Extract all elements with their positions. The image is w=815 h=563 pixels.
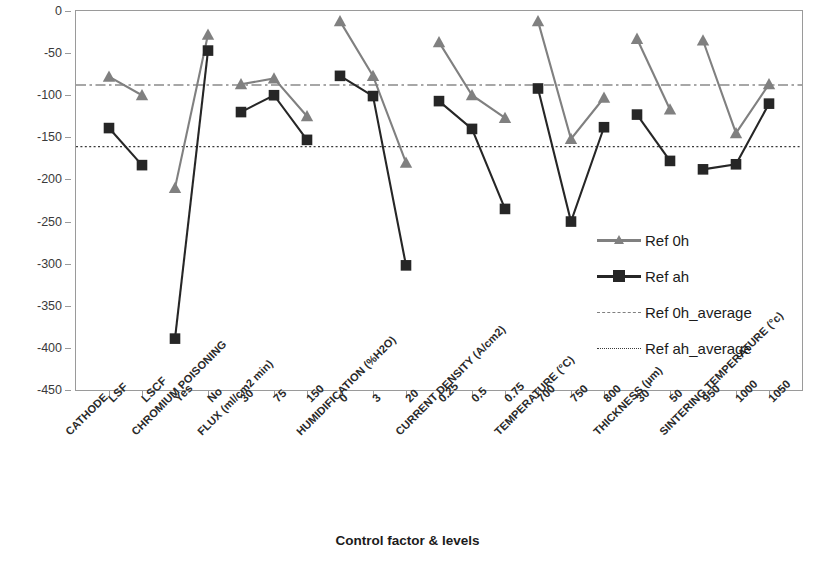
legend-item[interactable]: Ref 0h_average (597, 294, 797, 330)
y-tick-mark (65, 390, 71, 391)
series-segment (175, 51, 208, 339)
y-tick-label: -400 (37, 341, 62, 355)
triangle-marker-icon (614, 235, 624, 244)
triangle-marker (202, 28, 214, 39)
square-marker (302, 135, 313, 146)
series-segment (340, 76, 406, 266)
triangle-marker (697, 34, 709, 45)
square-marker (665, 156, 676, 167)
y-tick-label: -200 (37, 172, 62, 186)
legend-label: Ref ah_average (645, 340, 752, 357)
y-tick-label: 0 (55, 4, 62, 18)
x-factor-label: CATHODE (63, 391, 110, 438)
legend-label: Ref ah (645, 268, 689, 285)
y-tick-mark (65, 306, 71, 307)
square-marker-icon (613, 270, 625, 282)
square-marker (401, 260, 412, 271)
y-tick-mark (65, 264, 71, 265)
triangle-marker (730, 127, 742, 138)
triangle-marker (631, 33, 643, 44)
average-effect-line-chart: Average effect for ΔV/500h (mV/500h) 0-5… (0, 0, 815, 563)
triangle-marker (433, 36, 445, 47)
legend-item[interactable]: Ref ah (597, 258, 797, 294)
series-segment (439, 101, 505, 209)
square-marker (104, 123, 115, 134)
x-axis-title: Control factor & levels (0, 533, 815, 548)
triangle-marker (367, 70, 379, 81)
square-marker (500, 204, 511, 215)
triangle-marker (598, 92, 610, 103)
square-marker (236, 107, 247, 118)
series-segment (637, 39, 670, 110)
triangle-marker (532, 15, 544, 26)
square-marker (731, 159, 742, 170)
y-tick-mark (65, 348, 71, 349)
legend-key (597, 233, 641, 247)
y-tick-label: -450 (37, 383, 62, 397)
triangle-marker (334, 15, 346, 26)
square-marker (764, 98, 775, 109)
series-segment (637, 115, 670, 161)
square-marker (533, 83, 544, 94)
square-marker (566, 216, 577, 227)
series-segment (439, 42, 505, 118)
square-marker (335, 71, 346, 82)
series-segment (175, 35, 208, 188)
legend-item[interactable]: Ref 0h (597, 222, 797, 258)
triangle-marker (499, 112, 511, 123)
y-tick-mark (65, 179, 71, 180)
y-tick-mark (65, 11, 71, 12)
square-marker (698, 164, 709, 175)
y-tick-label: -350 (37, 299, 62, 313)
square-marker (269, 90, 280, 101)
triangle-marker (466, 89, 478, 100)
square-marker (203, 45, 214, 56)
series-segment (241, 95, 307, 140)
square-marker (137, 160, 148, 171)
triangle-marker (664, 103, 676, 114)
legend-key (597, 305, 641, 319)
series-segment (109, 128, 142, 165)
series-segment (703, 40, 769, 133)
square-marker (434, 96, 445, 107)
series-segment (538, 21, 604, 139)
y-tick-label: -50 (44, 46, 62, 60)
y-axis-tick-labels: 0-50-100-150-200-250-300-350-400-450 (0, 0, 75, 391)
triangle-marker (103, 70, 115, 81)
triangle-marker (169, 182, 181, 193)
square-marker (632, 109, 643, 120)
triangle-marker (136, 89, 148, 100)
y-tick-label: -100 (37, 88, 62, 102)
y-tick-label: -300 (37, 257, 62, 271)
y-tick-mark (65, 53, 71, 54)
square-marker (467, 124, 478, 135)
square-marker (170, 333, 181, 344)
y-tick-mark (65, 95, 71, 96)
triangle-marker (268, 72, 280, 83)
square-marker (599, 122, 610, 133)
square-marker (368, 91, 379, 102)
legend-label: Ref 0h_average (645, 304, 752, 321)
legend-key (597, 269, 641, 283)
y-tick-label: -250 (37, 215, 62, 229)
series-segment (538, 88, 604, 221)
triangle-marker (763, 78, 775, 89)
y-tick-mark (65, 222, 71, 223)
legend-key (597, 341, 641, 355)
legend-item[interactable]: Ref ah_average (597, 330, 797, 366)
y-tick-mark (65, 137, 71, 138)
legend-label: Ref 0h (645, 232, 689, 249)
x-level-label: 3 (370, 391, 383, 404)
series-segment (109, 77, 142, 96)
triangle-marker (400, 156, 412, 167)
y-tick-label: -150 (37, 130, 62, 144)
chart-legend: Ref 0hRef ahRef 0h_averageRef ah_average (597, 222, 797, 366)
